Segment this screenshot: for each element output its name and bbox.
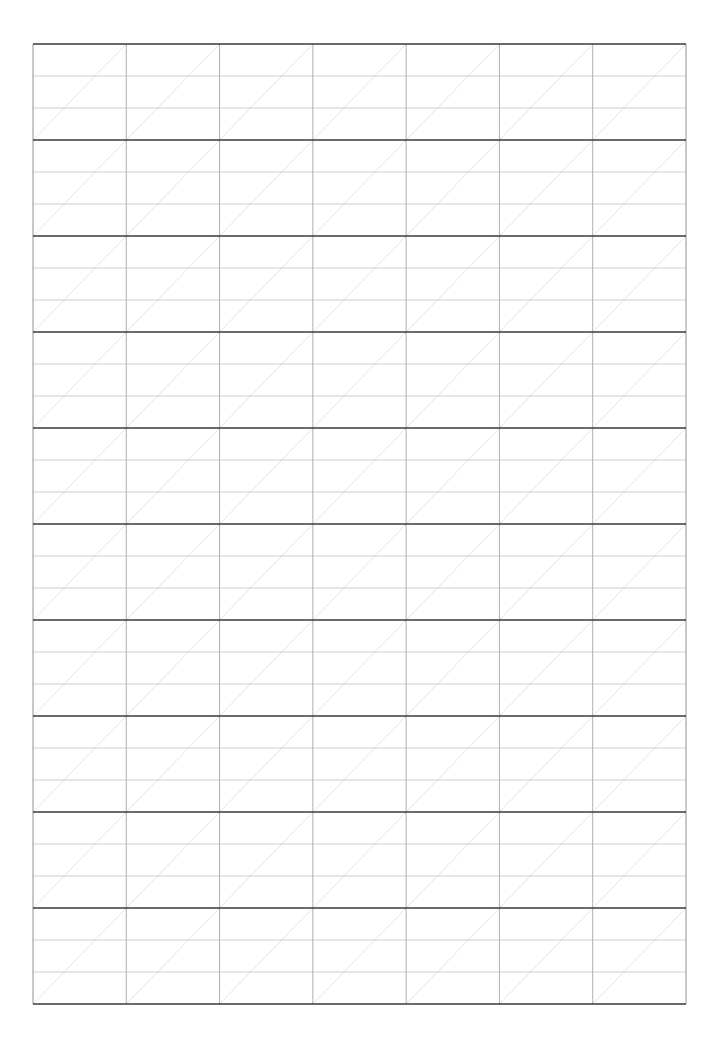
cell-diagonal — [126, 524, 219, 620]
cell-diagonal — [33, 44, 126, 140]
cell-diagonal — [499, 428, 592, 524]
cell-diagonal — [406, 332, 499, 428]
cell-diagonal — [593, 620, 686, 716]
cell-diagonal — [33, 620, 126, 716]
cell-diagonal — [220, 236, 313, 332]
cell-diagonal — [33, 332, 126, 428]
cell-diagonal — [406, 44, 499, 140]
cell-diagonal — [33, 524, 126, 620]
cell-diagonal — [499, 524, 592, 620]
cell-diagonal — [33, 428, 126, 524]
cell-diagonal — [126, 620, 219, 716]
cell-diagonal — [126, 812, 219, 908]
cell-diagonal — [126, 332, 219, 428]
cell-diagonal — [593, 332, 686, 428]
cell-diagonal — [313, 428, 406, 524]
cell-diagonal — [220, 716, 313, 812]
cell-diagonal — [499, 620, 592, 716]
writing-grid — [0, 0, 722, 1043]
cell-diagonal — [593, 716, 686, 812]
cell-diagonal — [220, 44, 313, 140]
cell-diagonal — [499, 236, 592, 332]
cell-diagonal — [33, 908, 126, 1004]
cell-diagonal — [126, 44, 219, 140]
cell-diagonal — [313, 140, 406, 236]
cell-diagonal — [593, 140, 686, 236]
cell-diagonal — [499, 140, 592, 236]
cell-diagonal — [313, 908, 406, 1004]
cell-diagonal — [499, 812, 592, 908]
cell-diagonal — [406, 716, 499, 812]
cell-diagonal — [33, 716, 126, 812]
cell-diagonal — [33, 140, 126, 236]
cell-diagonal — [220, 524, 313, 620]
cell-diagonal — [406, 812, 499, 908]
cell-diagonal — [406, 908, 499, 1004]
cell-diagonal — [499, 716, 592, 812]
cell-diagonal — [220, 332, 313, 428]
cell-diagonal — [220, 140, 313, 236]
cell-diagonal — [313, 236, 406, 332]
cell-diagonal — [126, 716, 219, 812]
cell-diagonal — [593, 812, 686, 908]
cell-diagonal — [126, 140, 219, 236]
cell-diagonal — [406, 236, 499, 332]
cell-diagonal — [313, 620, 406, 716]
cell-diagonal — [126, 908, 219, 1004]
cell-diagonal — [406, 140, 499, 236]
cell-diagonal — [33, 812, 126, 908]
cell-diagonal — [313, 716, 406, 812]
cell-diagonal — [593, 524, 686, 620]
cell-diagonal — [33, 236, 126, 332]
cell-diagonal — [499, 44, 592, 140]
cell-diagonal — [593, 44, 686, 140]
cell-diagonal — [499, 332, 592, 428]
cell-diagonal — [126, 236, 219, 332]
cell-diagonal — [593, 428, 686, 524]
practice-sheet — [0, 0, 722, 1043]
cell-diagonal — [126, 428, 219, 524]
cell-diagonal — [593, 236, 686, 332]
cell-diagonal — [313, 332, 406, 428]
cell-diagonal — [499, 908, 592, 1004]
cell-diagonal — [313, 44, 406, 140]
cell-diagonal — [220, 428, 313, 524]
cell-diagonal — [313, 812, 406, 908]
cell-diagonal — [406, 428, 499, 524]
cell-diagonal — [406, 620, 499, 716]
cell-diagonal — [220, 812, 313, 908]
cell-diagonal — [220, 620, 313, 716]
cell-diagonal — [313, 524, 406, 620]
cell-diagonal — [220, 908, 313, 1004]
cell-diagonal — [593, 908, 686, 1004]
cell-diagonal — [406, 524, 499, 620]
